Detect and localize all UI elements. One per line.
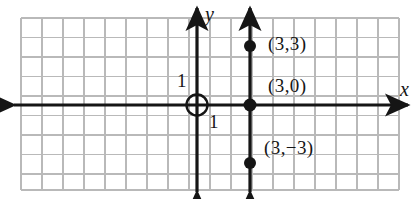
point-label-3-3: (3,3) bbox=[268, 34, 306, 53]
point-label-3-neg3: (3,−3) bbox=[264, 138, 314, 157]
coordinate-plane-figure: y x 1 1 (3,3) (3,0) (3,−3) bbox=[0, 0, 417, 199]
data-point-3-0 bbox=[244, 99, 257, 112]
x-axis-label: x bbox=[400, 79, 409, 99]
unit-label-horizontal: 1 bbox=[209, 112, 219, 131]
data-point-3-3 bbox=[244, 40, 256, 52]
y-axis-label: y bbox=[205, 4, 214, 24]
graph-canvas bbox=[0, 0, 417, 199]
point-label-3-0: (3,0) bbox=[268, 76, 306, 95]
data-point-3-neg3 bbox=[244, 157, 256, 169]
unit-label-vertical: 1 bbox=[177, 71, 187, 90]
